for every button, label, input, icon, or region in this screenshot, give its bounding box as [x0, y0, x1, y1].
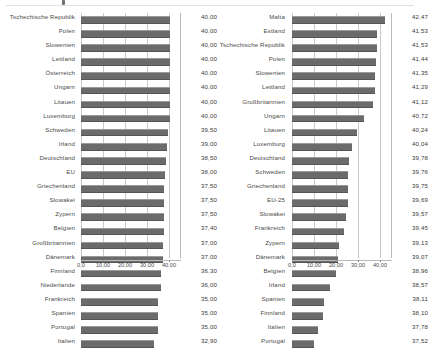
axis-tick-label: 40,00	[373, 262, 387, 268]
bar-row	[292, 182, 391, 196]
axis-tick-label: 0,0	[77, 262, 85, 268]
bar	[81, 87, 170, 95]
category-label: Dänemark	[1, 250, 75, 264]
bar-row	[292, 140, 391, 154]
bar-row	[81, 83, 180, 97]
chart-left-category-labels: Tschechische RepublikPolenSlowenienLettl…	[1, 10, 75, 348]
bar-row	[292, 55, 391, 69]
value-label: 39,57	[394, 207, 428, 221]
bar	[292, 44, 377, 52]
category-label: Schweden	[1, 123, 75, 137]
bar	[81, 115, 170, 123]
category-label: Österreich	[1, 66, 75, 80]
bar-row	[81, 281, 180, 295]
bar	[292, 143, 352, 151]
category-label: Zypern	[211, 236, 285, 250]
bar	[81, 199, 164, 207]
category-label: Litauen	[1, 95, 75, 109]
bar	[81, 58, 170, 66]
category-label: Italien	[211, 320, 285, 334]
category-label: Niederlande	[1, 278, 75, 292]
bar-row	[292, 239, 391, 253]
value-label: 39,76	[394, 165, 428, 179]
bar-row	[81, 182, 180, 196]
category-label: Tschechische Republik	[211, 38, 285, 52]
category-label: Belgien	[211, 264, 285, 278]
bar	[81, 129, 168, 137]
bar-row	[81, 154, 180, 168]
value-label: 38,96	[394, 264, 428, 278]
bar	[81, 242, 163, 250]
category-label: Estland	[211, 24, 285, 38]
bar-row	[292, 112, 391, 126]
bar	[81, 72, 170, 80]
value-label: 42,47	[394, 10, 428, 24]
category-label: Deutschland	[211, 151, 285, 165]
bar	[81, 312, 158, 320]
category-label: Polen	[1, 24, 75, 38]
category-label: EU-25	[211, 193, 285, 207]
bar-row	[292, 83, 391, 97]
axis-tick-label: 10,00	[307, 262, 321, 268]
bar	[292, 284, 330, 292]
bar-row	[292, 210, 391, 224]
chart-right-value-labels: 42,4741,5341,5341,4441,3541,2941,1240,72…	[394, 10, 428, 348]
category-label: Finnland	[211, 306, 285, 320]
category-label: Spanien	[1, 306, 75, 320]
category-label: Polen	[211, 52, 285, 66]
value-label: 40,04	[394, 137, 428, 151]
value-label: 41,35	[394, 66, 428, 80]
category-label: Portugal	[1, 320, 75, 334]
bar-row	[81, 41, 180, 55]
chart-left-axis-line	[81, 260, 181, 261]
chart-left: Tschechische RepublikPolenSlowenienLettl…	[0, 10, 210, 275]
value-label: 41,53	[394, 24, 428, 38]
bar-row	[292, 27, 391, 41]
value-label: 41,44	[394, 52, 428, 66]
value-label: 41,29	[394, 80, 428, 94]
axis-tick-label: 30,00	[140, 262, 154, 268]
category-label: Irland	[211, 278, 285, 292]
bar	[81, 143, 167, 151]
remnant-hairline	[6, 5, 414, 6]
bar-row	[81, 168, 180, 182]
category-label: Slowakei	[211, 207, 285, 221]
bar	[292, 16, 385, 24]
category-label: Italien	[1, 334, 75, 348]
category-label: Lettland	[211, 80, 285, 94]
category-label: EU	[1, 165, 75, 179]
value-label: 39,13	[394, 236, 428, 250]
value-label: 39,75	[394, 179, 428, 193]
bar	[292, 312, 323, 320]
category-label: Ungarn	[1, 80, 75, 94]
bar	[81, 30, 170, 38]
category-label: Dänemark	[211, 250, 285, 264]
bar-row	[81, 55, 180, 69]
bar	[292, 115, 364, 123]
value-label: 40,24	[394, 123, 428, 137]
bar	[292, 340, 314, 348]
bar-row	[81, 210, 180, 224]
chart-left-plot-area	[81, 13, 181, 258]
category-label: Frankreich	[211, 221, 285, 235]
value-label: 37,52	[394, 334, 428, 348]
bar	[292, 129, 357, 137]
category-label: Zypern	[1, 207, 75, 221]
value-label: 39,69	[394, 193, 428, 207]
bar-row	[81, 140, 180, 154]
bar	[292, 298, 324, 306]
bar-row	[292, 154, 391, 168]
category-label: Spanien	[211, 292, 285, 306]
bar-row	[292, 126, 391, 140]
category-label: Slowenien	[211, 66, 285, 80]
bar	[81, 228, 164, 236]
value-label: 37,78	[394, 320, 428, 334]
bar-row	[81, 196, 180, 210]
bar-row	[292, 41, 391, 55]
category-label: Schweden	[211, 165, 285, 179]
bar	[81, 284, 161, 292]
category-label: Irland	[1, 137, 75, 151]
axis-tick-label: 10,00	[96, 262, 110, 268]
category-label: Belgien	[1, 221, 75, 235]
